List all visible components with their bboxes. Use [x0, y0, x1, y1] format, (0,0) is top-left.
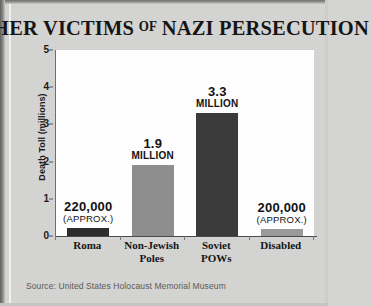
bar-value-secondary: MILLION — [182, 99, 252, 110]
y-tick-mark-3 — [49, 124, 53, 125]
chart-title-of: OF — [136, 19, 160, 35]
x-category-label[interactable]: Roma — [55, 239, 120, 252]
x-tick-mark — [184, 236, 185, 240]
bar-value-label: 220,000(APPROX.) — [53, 200, 123, 224]
y-tick-mark-1 — [49, 198, 53, 199]
bar[interactable] — [67, 228, 109, 236]
y-tick-mark-4 — [49, 87, 53, 88]
bar-chart: Death Toll (millions) 012345 220,000(APP… — [13, 44, 315, 272]
chart-title-part1: OTHER VICTIMS — [0, 15, 136, 41]
y-axis-tick-labels: 012345 — [35, 44, 53, 240]
bar-column: 220,000(APPROX.) — [67, 50, 109, 236]
bar-value-primary: 3.3 — [182, 85, 252, 99]
x-category-label-line1: Non-Jewish — [124, 239, 179, 251]
y-tick-mark-2 — [49, 161, 53, 162]
bar-value-label: 3.3MILLION — [182, 85, 252, 109]
x-tick-mark — [249, 236, 250, 240]
bar-column: 1.9MILLION — [132, 50, 174, 236]
x-axis-category-labels: RomaNon-JewishPolesSovietPOWsDisabled — [55, 239, 313, 271]
bar-value-primary: 1.9 — [118, 137, 188, 151]
bar[interactable] — [196, 113, 238, 236]
x-tick-mark — [55, 236, 56, 240]
bar-value-primary: 220,000 — [53, 200, 123, 214]
x-category-label-line2: Poles — [120, 252, 185, 265]
y-tick-mark-5 — [49, 50, 53, 51]
page-border-left — [0, 0, 5, 306]
x-category-label-line1: Disabled — [260, 239, 301, 251]
chart-title: OTHER VICTIMSOFNAZI PERSECUTION — [22, 14, 310, 41]
page-border-right — [325, 0, 328, 306]
source-caption: Source: United States Holocaust Memorial… — [26, 281, 226, 291]
x-category-label[interactable]: Disabled — [249, 239, 314, 252]
bar[interactable] — [132, 165, 174, 236]
y-tick-mark-0 — [49, 236, 53, 237]
plot-area: 220,000(APPROX.)1.9MILLION3.3MILLION200,… — [55, 50, 314, 236]
bar-column: 200,000(APPROX.) — [261, 50, 303, 236]
x-category-label[interactable]: Non-JewishPoles — [120, 239, 185, 264]
x-tick-mark — [313, 236, 314, 240]
x-category-label[interactable]: SovietPOWs — [184, 239, 249, 264]
bar-value-secondary: MILLION — [118, 151, 188, 162]
x-category-label-line1: Soviet — [202, 239, 231, 251]
page-border-top — [0, 0, 328, 4]
x-category-label-line1: Roma — [73, 239, 101, 251]
bar-value-primary: 200,000 — [247, 201, 317, 215]
x-axis-line — [55, 236, 317, 237]
bar-value-label: 200,000(APPROX.) — [247, 201, 317, 225]
x-category-label-line2: POWs — [184, 252, 249, 265]
bar[interactable] — [261, 229, 303, 236]
bar-value-secondary: (APPROX.) — [53, 214, 123, 224]
page-inner-rule — [9, 4, 11, 306]
bar-value-secondary: (APPROX.) — [247, 215, 317, 225]
bar-column: 3.3MILLION — [196, 50, 238, 236]
bar-series: 220,000(APPROX.)1.9MILLION3.3MILLION200,… — [56, 50, 314, 236]
x-tick-mark — [120, 236, 121, 240]
bar-value-label: 1.9MILLION — [118, 137, 188, 161]
chart-title-part2: NAZI PERSECUTION — [160, 15, 371, 41]
